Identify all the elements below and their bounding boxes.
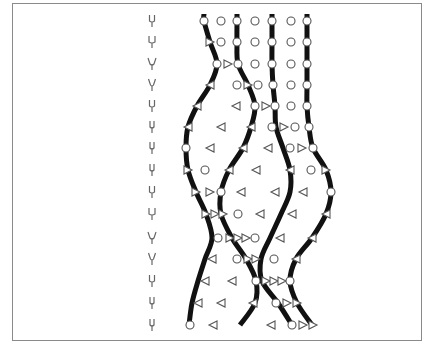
circle-marker-icon: [268, 17, 276, 25]
triangle-left-icon: [256, 210, 264, 218]
triangle-right-icon: [262, 102, 270, 110]
circle-marker-icon: [270, 255, 278, 263]
triangle-left-icon: [206, 144, 214, 152]
strand-diagram: [0, 0, 432, 349]
triangle-left-icon: [276, 234, 284, 242]
circle-marker-icon: [287, 60, 295, 68]
circle-marker-icon: [251, 102, 259, 110]
triangle-left-icon: [288, 210, 296, 218]
circle-marker-icon: [287, 81, 295, 89]
circle-marker-icon: [307, 166, 315, 174]
triangle-left-icon: [299, 188, 307, 196]
fork-icon: [150, 142, 154, 154]
circle-marker-icon: [217, 38, 225, 46]
circle-marker-icon: [200, 17, 208, 25]
fork-icon: [150, 164, 154, 176]
circle-marker-icon: [217, 17, 225, 25]
circle-marker-icon: [251, 17, 259, 25]
circle-marker-icon: [327, 188, 335, 196]
circle-marker-icon: [268, 60, 276, 68]
fork-icon: [150, 186, 155, 198]
circle-marker-icon: [287, 102, 295, 110]
circle-marker-icon: [252, 277, 260, 285]
triangle-right-icon: [280, 123, 288, 131]
fork-icon: [150, 121, 154, 133]
circle-marker-icon: [303, 81, 311, 89]
circle-marker-icon: [269, 81, 277, 89]
circle-marker-icon: [303, 17, 311, 25]
triangle-left-icon: [267, 321, 275, 329]
circle-marker-icon: [287, 38, 295, 46]
circle-marker-icon: [251, 60, 259, 68]
fork-icon: [150, 275, 155, 287]
triangle-right-icon: [299, 321, 307, 329]
circle-marker-icon: [201, 166, 209, 174]
marker-layer: [182, 17, 335, 329]
circle-marker-icon: [303, 60, 311, 68]
fork-column: [148, 15, 156, 331]
circle-marker-icon: [251, 234, 259, 242]
circle-marker-icon: [268, 123, 276, 131]
fork-icon: [150, 15, 155, 27]
triangle-left-icon: [194, 299, 202, 307]
triangle-left-icon: [264, 144, 272, 152]
triangle-right-icon: [278, 277, 286, 285]
triangle-left-icon: [209, 321, 217, 329]
circle-marker-icon: [214, 234, 222, 242]
circle-marker-icon: [303, 38, 311, 46]
triangle-right-icon: [206, 188, 214, 196]
circle-marker-icon: [182, 144, 190, 152]
fork-icon: [149, 79, 156, 91]
triangle-left-icon: [252, 166, 260, 174]
triangle-left-icon: [201, 277, 209, 285]
triangle-right-icon: [298, 144, 306, 152]
circle-marker-icon: [288, 321, 296, 329]
fork-icon: [150, 100, 155, 112]
circle-marker-icon: [268, 38, 276, 46]
circle-marker-icon: [271, 102, 279, 110]
circle-marker-icon: [234, 60, 242, 68]
circle-marker-icon: [233, 17, 241, 25]
circle-marker-icon: [303, 102, 311, 110]
triangle-right-icon: [270, 277, 278, 285]
triangle-left-icon: [237, 188, 245, 196]
fork-icon: [150, 319, 154, 331]
triangle-right-icon: [242, 234, 250, 242]
fork-icon: [150, 297, 154, 309]
circle-marker-icon: [286, 277, 294, 285]
circle-marker-icon: [254, 81, 262, 89]
circle-marker-icon: [272, 299, 280, 307]
fork-icon: [149, 36, 155, 48]
circle-marker-icon: [186, 321, 194, 329]
circle-marker-icon: [233, 255, 241, 263]
circle-marker-icon: [213, 60, 221, 68]
triangle-left-icon: [271, 188, 279, 196]
circle-marker-icon: [234, 210, 242, 218]
circle-marker-icon: [287, 17, 295, 25]
circle-marker-icon: [291, 123, 299, 131]
triangle-right-icon: [211, 210, 219, 218]
triangle-left-icon: [208, 255, 216, 263]
fork-icon: [148, 58, 156, 70]
triangle-right-icon: [224, 60, 232, 68]
triangle-right-icon: [283, 299, 291, 307]
triangle-right-icon: [234, 234, 242, 242]
fork-icon: [149, 253, 156, 265]
circle-marker-icon: [251, 38, 259, 46]
triangle-left-icon: [217, 299, 225, 307]
circle-marker-icon: [233, 81, 241, 89]
circle-marker-icon: [233, 38, 241, 46]
triangle-left-icon: [228, 277, 236, 285]
circle-marker-icon: [309, 144, 317, 152]
circle-marker-icon: [305, 123, 313, 131]
circle-marker-icon: [217, 188, 225, 196]
fork-icon: [148, 232, 156, 244]
circle-marker-icon: [286, 144, 294, 152]
triangle-left-icon: [217, 123, 225, 131]
fork-icon: [149, 208, 155, 220]
triangle-left-icon: [232, 102, 240, 110]
